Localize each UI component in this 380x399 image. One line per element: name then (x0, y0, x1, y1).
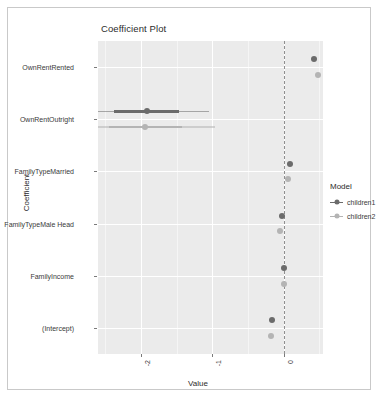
data-point (142, 124, 148, 130)
gridline-major-horizontal (98, 276, 323, 277)
y-tick-label: OwnRentRented (22, 64, 74, 71)
data-point (315, 72, 321, 78)
x-axis-label: Value (8, 379, 380, 388)
x-tick-mark (284, 354, 285, 357)
plot-panel (98, 41, 323, 354)
gridline-minor-vertical (319, 41, 320, 354)
y-tick-mark (94, 276, 97, 277)
y-tick-label: OwnRentOutright (20, 116, 74, 123)
x-tick-label: -1 (215, 360, 222, 366)
legend-item[interactable]: children1 (330, 196, 375, 208)
y-tick-mark (94, 171, 97, 172)
data-point (144, 108, 150, 114)
data-point (281, 265, 287, 271)
data-point (311, 56, 317, 62)
zero-reference-line (284, 41, 285, 354)
legend-key-dot (334, 200, 339, 205)
legend-key-dot (334, 214, 339, 219)
data-point (281, 281, 287, 287)
legend-key-icon (330, 197, 343, 208)
data-point (285, 176, 291, 182)
data-point (268, 333, 274, 339)
data-point (279, 213, 285, 219)
gridline-minor-vertical (248, 41, 249, 354)
data-point (287, 161, 293, 167)
x-tick-label: -2 (144, 360, 151, 366)
legend-item-label: children2 (347, 213, 375, 220)
gridline-major-horizontal (98, 224, 323, 225)
gridline-major-vertical (141, 41, 142, 354)
y-tick-label: (Intercept) (42, 324, 74, 331)
gridline-major-vertical (212, 41, 213, 354)
gridline-major-horizontal (98, 328, 323, 329)
gridline-major-horizontal (98, 119, 323, 120)
legend-title: Model (330, 182, 375, 191)
y-tick-mark (94, 328, 97, 329)
legend: Model children1children2 (330, 182, 375, 224)
y-tick-mark (94, 224, 97, 225)
gridline-major-horizontal (98, 171, 323, 172)
x-tick-label: 0 (287, 360, 294, 364)
y-tick-mark (94, 119, 97, 120)
gridline-major-horizontal (98, 67, 323, 68)
y-tick-mark (94, 67, 97, 68)
gridline-minor-vertical (105, 41, 106, 354)
y-tick-label: FamilyTypeMale Head (4, 220, 74, 227)
data-point (269, 317, 275, 323)
legend-item-label: children1 (347, 199, 375, 206)
y-tick-label: FamilyTypeMarried (14, 168, 74, 175)
y-tick-label: FamilyIncome (30, 272, 74, 279)
legend-items: children1children2 (330, 196, 375, 222)
x-tick-mark (141, 354, 142, 357)
gridline-minor-vertical (177, 41, 178, 354)
x-tick-mark (212, 354, 213, 357)
legend-item[interactable]: children2 (330, 210, 375, 222)
data-point (277, 228, 283, 234)
legend-key-icon (330, 211, 343, 222)
plot-frame: Coefficient Plot Coefficient Value OwnRe… (7, 7, 371, 390)
page-title: Coefficient Plot (101, 23, 166, 34)
